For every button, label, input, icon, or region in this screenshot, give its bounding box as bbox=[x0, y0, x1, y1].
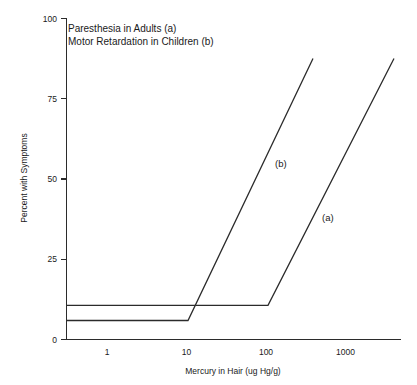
x-tick-label-1000: 1000 bbox=[336, 347, 355, 357]
x-axis-title: Mercury in Hair (ug Hg/g) bbox=[185, 366, 281, 376]
x-tick-label-100: 100 bbox=[259, 347, 273, 357]
x-tick-label-1: 1 bbox=[105, 347, 110, 357]
y-tick-label-25: 25 bbox=[48, 254, 58, 264]
y-tick-label-0: 0 bbox=[52, 335, 57, 345]
y-tick-label-75: 75 bbox=[48, 94, 58, 104]
mercury-symptoms-line-chart: 100 75 50 25 0 1 10 100 1000 Mercury in … bbox=[0, 0, 417, 385]
y-tick-label-100: 100 bbox=[43, 14, 57, 24]
legend-line-b: Motor Retardation in Children (b) bbox=[68, 36, 214, 47]
y-tick-label-50: 50 bbox=[48, 174, 58, 184]
chart-figure: 100 75 50 25 0 1 10 100 1000 Mercury in … bbox=[0, 0, 417, 385]
series-annotation-a: (a) bbox=[322, 212, 334, 223]
x-tick-label-10: 10 bbox=[182, 347, 192, 357]
legend-line-a: Paresthesia in Adults (a) bbox=[68, 23, 176, 34]
y-axis-title: Percent with Symptoms bbox=[19, 133, 29, 222]
series-annotation-b: (b) bbox=[275, 158, 287, 169]
chart-background bbox=[0, 0, 417, 385]
